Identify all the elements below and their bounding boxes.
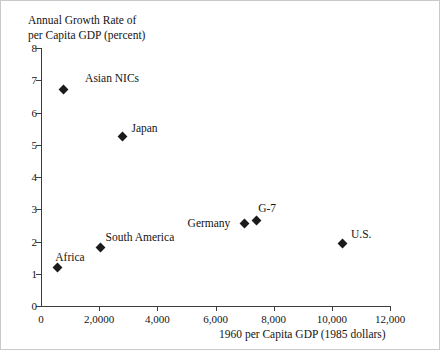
x-axis-title: 1960 per Capita GDP (1985 dollars): [219, 327, 386, 341]
data-point-label: G-7: [258, 202, 276, 214]
x-tick-label: 0: [38, 314, 44, 325]
data-point-label: Germany: [188, 217, 231, 229]
data-point-marker: [240, 219, 250, 229]
y-tick-label: 4: [32, 172, 38, 183]
data-point-marker: [117, 132, 127, 142]
plot-area: 012345678 02,00004,0006,0008,00010,00012…: [41, 48, 390, 306]
y-tick-label: 1: [32, 268, 38, 279]
x-tick-label: 10,000: [317, 314, 347, 325]
y-axis-line: [41, 48, 42, 306]
data-point-marker: [337, 238, 347, 248]
x-tick: [157, 306, 158, 311]
y-tick-label: 5: [32, 139, 38, 150]
x-tick-label: 6,000: [203, 314, 228, 325]
data-point-marker: [58, 85, 68, 95]
x-tick-label: 4,000: [145, 314, 170, 325]
y-tick-label: 7: [32, 75, 38, 86]
y-tick-label: 8: [32, 43, 38, 54]
y-axis-title: Annual Growth Rate of per Capita GDP (pe…: [28, 13, 145, 42]
x-tick-label: 2,0000: [84, 314, 114, 325]
y-tick-label: 2: [32, 236, 38, 247]
y-tick-label: 6: [32, 107, 38, 118]
data-point-marker: [96, 243, 106, 253]
chart-figure: Annual Growth Rate of per Capita GDP (pe…: [0, 0, 440, 350]
data-point-label: Africa: [55, 251, 84, 263]
x-tick: [216, 306, 217, 311]
data-point-marker: [52, 262, 62, 272]
x-tick: [390, 306, 391, 311]
x-tick: [99, 306, 100, 311]
y-tick-label: 3: [32, 204, 38, 215]
y-tick-label: 0: [32, 301, 38, 312]
data-point-label: South America: [106, 231, 175, 243]
data-point-label: Asian NICs: [85, 72, 139, 84]
x-tick-label: 8,000: [261, 314, 286, 325]
data-point-marker: [251, 216, 261, 226]
x-tick: [274, 306, 275, 311]
x-tick-label: 12,000: [375, 314, 405, 325]
data-point-label: U.S.: [351, 228, 371, 240]
x-tick: [332, 306, 333, 311]
data-point-label: Japan: [131, 122, 157, 134]
